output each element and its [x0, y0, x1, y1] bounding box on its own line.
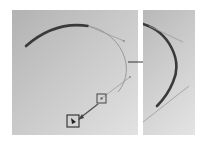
handle-line-bottom — [143, 86, 189, 122]
handle-point-top[interactable] — [123, 40, 125, 42]
before-panel — [12, 10, 138, 135]
after-panel — [143, 10, 195, 135]
curve-path — [88, 26, 126, 92]
handle-line-top — [88, 26, 124, 41]
handle-point-bottom[interactable] — [129, 76, 131, 78]
selected-curve-segment — [26, 25, 88, 46]
before-curve-canvas — [12, 10, 138, 135]
after-curve-canvas — [143, 10, 195, 135]
